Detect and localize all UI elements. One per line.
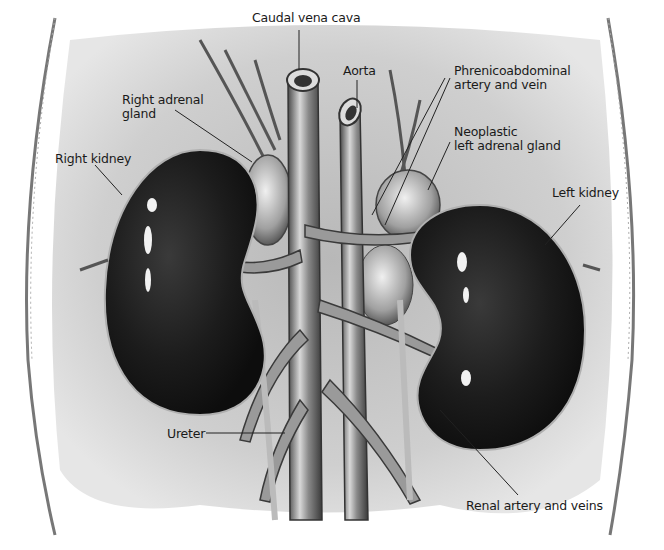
label-aorta: Aorta xyxy=(343,64,376,78)
label-neoplastic-left-adrenal: Neoplastic left adrenal gland xyxy=(454,125,561,153)
label-right-adrenal-line2: gland xyxy=(122,107,204,121)
label-phrenicoabdominal-line2: artery and vein xyxy=(454,78,570,92)
label-right-kidney: Right kidney xyxy=(55,152,131,166)
label-neoplastic-line1: Neoplastic xyxy=(454,125,561,139)
label-right-adrenal-gland: Right adrenal gland xyxy=(122,93,204,121)
caudal-vena-cava xyxy=(288,78,322,520)
left-body-wall xyxy=(27,18,55,535)
label-phrenicoabdominal: Phrenicoabdominal artery and vein xyxy=(454,64,570,92)
label-right-adrenal-line1: Right adrenal xyxy=(122,93,204,107)
label-renal-artery-veins: Renal artery and veins xyxy=(466,499,603,513)
label-caudal-vena-cava: Caudal vena cava xyxy=(252,11,360,25)
label-ureter: Ureter xyxy=(167,427,205,441)
label-phrenicoabdominal-line1: Phrenicoabdominal xyxy=(454,64,570,78)
label-left-kidney: Left kidney xyxy=(552,186,619,200)
label-neoplastic-line2: left adrenal gland xyxy=(454,139,561,153)
